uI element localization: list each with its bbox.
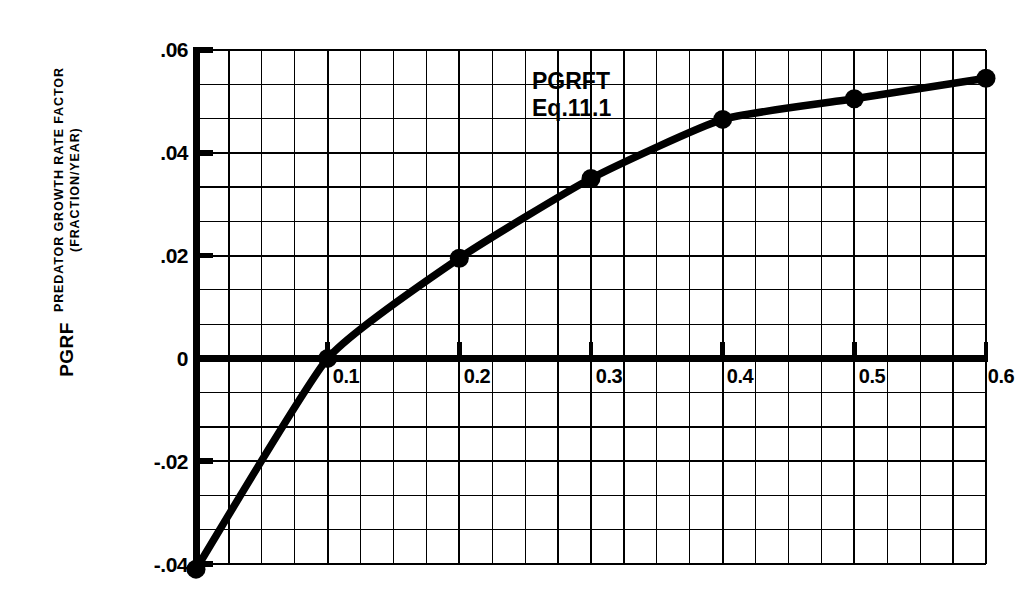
x-tick-label: 0.3 — [596, 366, 622, 386]
x-tick-label: 0.5 — [859, 366, 885, 386]
y-axis-title: PGRF PREDATOR GROWTH RATE FACTOR (FRACTI… — [37, 67, 97, 377]
y-axis-title-line1: PREDATOR GROWTH RATE FACTOR — [53, 67, 66, 312]
x-tick-label: 0.1 — [333, 366, 359, 386]
annotation-line-1: PGRFT — [532, 68, 611, 95]
y-axis-title-full: PREDATOR GROWTH RATE FACTOR (FRACTION/YE… — [53, 67, 81, 312]
x-tick-label: 0.6 — [988, 366, 1014, 386]
chart-figure: .06 .04 .02 0 -.02 -.04 0.1 0.2 0.3 0.4 … — [0, 0, 1032, 605]
y-axis-title-abbrev: PGRF — [56, 322, 78, 377]
x-tick-label: 0.4 — [727, 366, 753, 386]
annotation-line-2: Eq.11.1 — [532, 95, 611, 122]
x-tick-label: 0.2 — [464, 366, 490, 386]
x-axis-tick-labels: 0.1 0.2 0.3 0.4 0.5 0.6 — [0, 0, 1032, 605]
y-axis-title-line2: (FRACTION/YEAR) — [69, 127, 82, 252]
plot-annotation: PGRFT Eq.11.1 — [532, 68, 611, 122]
